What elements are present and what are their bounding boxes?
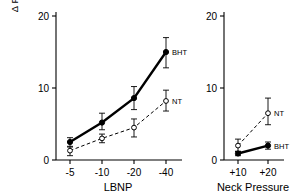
x-axis-label: LBNP <box>104 181 133 193</box>
series-label: NT <box>274 109 284 118</box>
data-point-open <box>164 99 169 104</box>
series-label: BHT <box>172 48 187 57</box>
plot-area-lbnp: 01020-5-10-20-40LBNPBHTNT <box>0 0 196 194</box>
data-point-open <box>68 148 73 153</box>
data-point-filled <box>235 151 240 156</box>
data-point-filled <box>99 120 104 125</box>
data-point-open <box>266 111 271 116</box>
data-point-open <box>100 136 105 141</box>
x-axis-tick-label: -20 <box>127 167 142 178</box>
figure-canvas: Δ Forearm Vascular Resistance (mmHg/ml/m… <box>0 0 306 194</box>
x-axis-tick-label: -40 <box>159 167 174 178</box>
panel-lbnp: 01020-5-10-20-40LBNPBHTNT <box>0 0 196 194</box>
data-point-filled <box>265 143 270 148</box>
x-axis-tick-label: -10 <box>95 167 110 178</box>
series-label: BHT <box>274 142 289 151</box>
x-axis-tick-label: -5 <box>66 167 75 178</box>
x-axis-label: Neck Pressure <box>217 181 289 193</box>
data-point-filled <box>131 95 136 100</box>
data-point-filled <box>67 139 72 144</box>
data-point-open <box>236 143 241 148</box>
panel-neck-pressure: 01020+10+20Neck PressureNTBHT <box>196 0 306 194</box>
series-line-solid <box>238 146 268 154</box>
data-point-open <box>132 125 137 130</box>
y-axis-tick-label: 10 <box>38 83 50 94</box>
series-line-dashed <box>70 101 166 151</box>
data-point-filled <box>163 49 168 54</box>
plot-area-neck-pressure: 01020+10+20Neck PressureNTBHT <box>196 0 306 194</box>
y-axis-tick-label: 10 <box>206 83 218 94</box>
y-axis-tick-label: 0 <box>43 155 49 166</box>
y-axis-tick-label: 0 <box>211 155 217 166</box>
series-line-dashed <box>238 113 268 145</box>
y-axis-tick-label: 20 <box>206 11 218 22</box>
series-line-solid <box>70 52 166 142</box>
x-axis-tick-label: +20 <box>260 167 277 178</box>
x-axis-tick-label: +10 <box>230 167 247 178</box>
y-axis-tick-label: 20 <box>38 11 50 22</box>
series-label: NT <box>172 97 182 106</box>
